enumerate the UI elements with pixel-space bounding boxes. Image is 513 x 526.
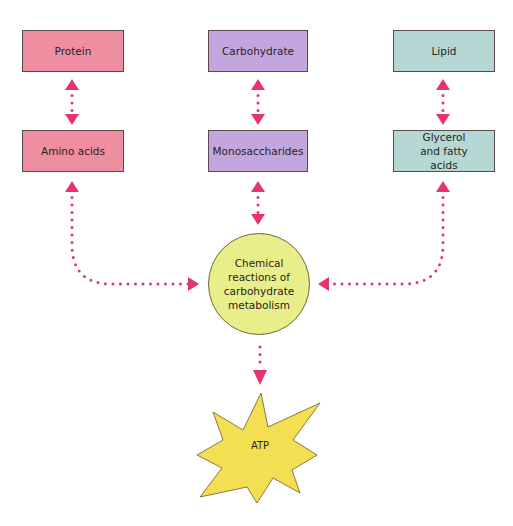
node-amino-acids: Amino acids	[22, 130, 124, 172]
node-lipid: Lipid	[393, 30, 495, 72]
node-carbohydrate-metabolism: Chemical reactions of carbohydrate metab…	[208, 233, 310, 335]
node-glycerol-fatty-acids-label: Glycerol and fatty acids	[412, 130, 476, 173]
node-carbohydrate-metabolism-label: Chemical reactions of carbohydrate metab…	[209, 256, 309, 313]
node-protein: Protein	[22, 30, 124, 72]
node-monosaccharides: Monosaccharides	[208, 130, 308, 172]
arrow-amino-acids-metabolism	[72, 190, 190, 284]
node-carbohydrate-label: Carbohydrate	[222, 44, 294, 58]
node-atp-label: ATP	[238, 440, 282, 451]
node-protein-label: Protein	[55, 44, 92, 58]
arrow-glycerol-metabolism	[328, 190, 443, 284]
node-glycerol-fatty-acids: Glycerol and fatty acids	[393, 130, 495, 172]
node-monosaccharides-label: Monosaccharides	[213, 144, 304, 158]
node-amino-acids-label: Amino acids	[41, 144, 105, 158]
node-lipid-label: Lipid	[431, 44, 456, 58]
node-carbohydrate: Carbohydrate	[208, 30, 308, 72]
